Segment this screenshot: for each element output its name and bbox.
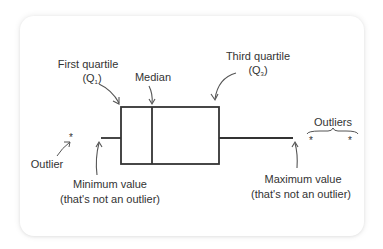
minimum-value-note: (that's not an outlier) <box>56 192 164 206</box>
third-quartile-label: Third quartile <box>222 49 294 63</box>
outlier-label: Outlier <box>27 157 67 171</box>
outliers-label: Outliers <box>312 115 354 129</box>
maximum-value-label: Maximum value <box>262 172 344 186</box>
median-arrow-icon <box>149 86 155 104</box>
third-quartile-arrow-icon <box>211 73 236 100</box>
minimum-value-label: Minimum value <box>70 177 150 191</box>
minimum-arrow-icon <box>96 142 102 175</box>
first-quartile-label: First quartile <box>56 57 120 71</box>
diagram-canvas: * * * First quartile (Q1) Median Third q… <box>0 0 383 249</box>
first-quartile-symbol: (Q1) <box>80 71 104 89</box>
outlier-star-icon: * <box>69 131 73 145</box>
outlier-star-icon: * <box>309 134 313 148</box>
maximum-value-note: (that's not an outlier) <box>247 187 355 201</box>
median-label: Median <box>133 70 173 84</box>
third-quartile-symbol: (Q3) <box>246 63 270 81</box>
outlier-star-icon: * <box>348 134 352 148</box>
interquartile-box <box>121 107 219 164</box>
maximum-arrow-icon <box>292 142 298 168</box>
